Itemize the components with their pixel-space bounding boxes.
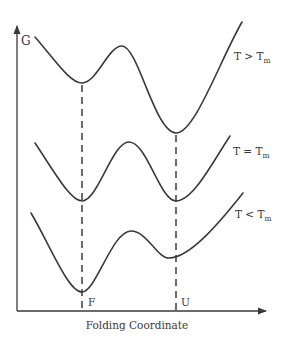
curve-t-greater-than-tm <box>35 22 242 133</box>
label-t-less-than-tm: T < Tm <box>235 208 272 223</box>
folded-state-label: F <box>88 296 95 308</box>
free-energy-diagram: G T > Tm T = Tm T < Tm F U Folding Coord… <box>0 0 285 343</box>
curve-t-less-than-tm <box>31 193 243 292</box>
y-axis-label: G <box>21 34 31 48</box>
x-axis-label: Folding Coordinate <box>86 319 189 331</box>
label-t-greater-than-tm: T > Tm <box>234 50 271 65</box>
label-t-equals-tm: T = Tm <box>233 145 270 160</box>
curve-t-equals-tm <box>35 136 230 201</box>
unfolded-state-label: U <box>181 296 190 308</box>
